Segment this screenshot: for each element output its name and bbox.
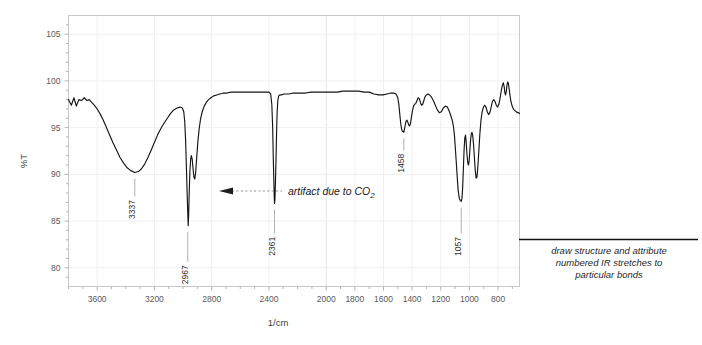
x-tick-label: 1800 xyxy=(345,294,364,304)
x-tick-label: 3600 xyxy=(88,294,107,304)
y-tick-label: 105 xyxy=(46,29,60,39)
peak-label-2967: 2967 xyxy=(180,265,190,284)
peak-label-1458: 1458 xyxy=(396,154,406,173)
x-tick-label: 2800 xyxy=(202,294,221,304)
note-line-1: draw structure and attribute xyxy=(551,245,667,256)
ir-spectrum-figure: 3600320028002400200018001600140012001000… xyxy=(0,0,702,345)
x-tick-label: 1400 xyxy=(403,294,422,304)
y-tick-label: 85 xyxy=(51,216,61,226)
ir-spectrum-page: 3600320028002400200018001600140012001000… xyxy=(0,0,702,345)
y-tick-label: 80 xyxy=(51,263,61,273)
y-tick-label: 100 xyxy=(46,76,60,86)
x-tick-label: 800 xyxy=(491,294,505,304)
peak-label-1057: 1057 xyxy=(453,237,463,256)
y-tick-label: 95 xyxy=(51,123,61,133)
peak-label-3337: 3337 xyxy=(127,200,137,219)
co2-subscript: 2 xyxy=(369,191,375,200)
x-tick-label: 1000 xyxy=(460,294,479,304)
x-tick-label: 3200 xyxy=(145,294,164,304)
x-tick-label: 1600 xyxy=(374,294,393,304)
x-tick-label: 1200 xyxy=(431,294,450,304)
note-line-3: particular bonds xyxy=(574,269,643,280)
y-tick-label: 90 xyxy=(51,169,61,179)
x-tick-label: 2000 xyxy=(317,294,336,304)
note-line-2: numbered IR stretches to xyxy=(556,257,663,268)
x-axis-title: 1/cm xyxy=(268,317,289,328)
x-tick-label: 2400 xyxy=(259,294,278,304)
peak-label-2361: 2361 xyxy=(267,237,277,256)
y-axis-title: %T xyxy=(18,154,29,168)
